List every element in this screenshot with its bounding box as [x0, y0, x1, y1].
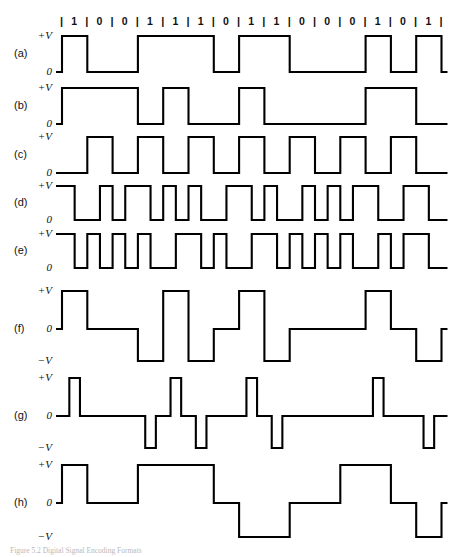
waveform-row-d: (d)+V0 [0, 181, 453, 225]
waveform-label-d: (d) [14, 196, 27, 208]
bit-value: 1 [141, 16, 159, 27]
waveform-row-e: (e)+V0 [0, 229, 453, 273]
bit-value: 0 [394, 16, 412, 27]
waveform-label-g: (g) [14, 409, 27, 421]
waveform-trace-c [56, 131, 448, 179]
waveform-label-f: (f) [14, 322, 24, 334]
bit-separator: | [286, 16, 293, 27]
bit-value: 0 [90, 16, 108, 27]
axis-label-zero-c: 0 [28, 167, 52, 178]
waveform-path [56, 291, 448, 361]
waveform-label-h: (h) [14, 496, 27, 508]
axis-label-plus-v-c: +V [28, 131, 52, 142]
waveform-path [56, 137, 448, 173]
bit-value: 1 [369, 16, 387, 27]
waveform-row-b: (b)+V0 [0, 82, 453, 130]
waveform-trace-h [56, 459, 448, 543]
waveform-label-b: (b) [14, 99, 27, 111]
bit-separator: | [210, 16, 217, 27]
waveform-trace-g [56, 372, 448, 454]
bit-separator: | [437, 16, 444, 27]
bit-separator: | [336, 16, 343, 27]
figure-caption: Figure 5.2 Digital Signal Encoding Forma… [10, 546, 450, 557]
axis-label-plus-v-a: +V [28, 30, 52, 41]
waveform-label-c: (c) [14, 148, 27, 160]
axis-label-zero-f: 0 [28, 323, 52, 334]
axis-label-zero-g: 0 [28, 410, 52, 421]
axis-label-zero-d: 0 [28, 214, 52, 225]
bit-value: 0 [293, 16, 311, 27]
bit-value: 0 [116, 16, 134, 27]
bit-separator: | [387, 16, 394, 27]
bit-separator: | [159, 16, 166, 27]
bit-separator: | [412, 16, 419, 27]
waveform-trace-d [56, 181, 448, 225]
waveform-path [56, 186, 448, 220]
waveform-trace-f [56, 285, 448, 367]
waveform-row-f: (f)+V0−V [0, 285, 453, 367]
axis-label-minus-v-f: −V [28, 355, 52, 366]
waveform-path [56, 88, 448, 124]
waveform-label-e: (e) [14, 244, 27, 256]
bit-separator: | [311, 16, 318, 27]
waveform-path [56, 378, 448, 448]
waveform-label-a: (a) [14, 47, 27, 59]
bit-separator: | [83, 16, 90, 27]
bit-value: 1 [419, 16, 437, 27]
axis-label-plus-v-e: +V [28, 228, 52, 239]
bit-value: 1 [242, 16, 260, 27]
bit-separator: | [362, 16, 369, 27]
bit-value: 1 [65, 16, 83, 27]
bit-value: 0 [217, 16, 235, 27]
axis-label-plus-v-h: +V [28, 459, 52, 470]
axis-label-plus-v-d: +V [28, 180, 52, 191]
waveform-trace-e [56, 229, 448, 273]
bit-value: 1 [191, 16, 209, 27]
axis-label-plus-v-g: +V [28, 372, 52, 383]
waveform-row-a: (a)+V0 [0, 30, 453, 78]
bit-separator: | [235, 16, 242, 27]
digital-signal-encoding-figure: |1|0|0|1|1|1|0|1|1|0|0|0|1|0|1| (a)+V0(b… [0, 0, 453, 557]
axis-label-minus-v-h: −V [28, 531, 52, 542]
bit-value: 0 [318, 16, 336, 27]
axis-label-zero-h: 0 [28, 497, 52, 508]
waveform-trace-a [56, 30, 448, 78]
bit-separator: | [58, 16, 65, 27]
bit-separator: | [260, 16, 267, 27]
axis-label-zero-b: 0 [28, 118, 52, 129]
bit-value: 1 [166, 16, 184, 27]
waveform-row-g: (g)+V0−V [0, 372, 453, 454]
bit-value: 1 [267, 16, 285, 27]
bit-separator: | [109, 16, 116, 27]
bit-value: 0 [343, 16, 361, 27]
waveform-trace-b [56, 82, 448, 130]
axis-label-plus-v-f: +V [28, 285, 52, 296]
bit-separator: | [184, 16, 191, 27]
waveform-row-h: (h)+V0−V [0, 459, 453, 543]
bit-sequence-header: |1|0|0|1|1|1|0|1|1|0|0|0|1|0|1| [58, 12, 444, 30]
axis-label-zero-a: 0 [28, 66, 52, 77]
waveform-path [56, 465, 448, 537]
axis-label-plus-v-b: +V [28, 82, 52, 93]
waveform-path [56, 234, 448, 268]
bit-separator: | [134, 16, 141, 27]
axis-label-zero-e: 0 [28, 262, 52, 273]
axis-label-minus-v-g: −V [28, 442, 52, 453]
waveform-path [56, 36, 448, 72]
waveform-row-c: (c)+V0 [0, 131, 453, 179]
